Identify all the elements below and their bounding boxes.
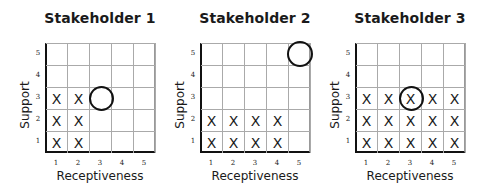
grid-cell: [201, 87, 223, 109]
x-mark: X: [444, 87, 466, 109]
y-tick-label: 2: [33, 115, 43, 123]
x-tick-label: 1: [355, 159, 377, 167]
x-mark: X: [400, 131, 422, 153]
x-tick-label: 3: [89, 159, 111, 167]
x-mark: X: [68, 131, 90, 153]
grid-cell: [112, 43, 134, 65]
x-tick-label: 3: [399, 159, 421, 167]
circle-marker: [89, 86, 114, 111]
grid-cell: [245, 65, 267, 87]
x-axis-label: Receptiveness: [195, 169, 315, 183]
x-mark: X: [46, 87, 68, 109]
y-tick-label: 3: [343, 93, 353, 101]
grid-cell: [223, 87, 245, 109]
grid-cell: [201, 65, 223, 87]
y-tick-label: 1: [188, 137, 198, 145]
grid-cell: [444, 43, 466, 65]
grid-cell: [289, 131, 311, 153]
grid-cell: [289, 109, 311, 131]
y-tick-label: 2: [188, 115, 198, 123]
chart-panel-3: Stakeholder 3XXXXXXXXXXXXXXX1234512345Su…: [318, 0, 478, 194]
grid-cell: [422, 43, 444, 65]
y-tick-label: 4: [343, 71, 353, 79]
grid-cell: [134, 43, 156, 65]
grid-cell: [90, 65, 112, 87]
x-mark: X: [267, 131, 289, 153]
grid-cell: [267, 43, 289, 65]
circle-marker: [287, 41, 313, 67]
chart-grid: XXXXXX: [45, 43, 155, 153]
y-axis-label: Support: [18, 81, 32, 128]
grid-cell: [378, 43, 400, 65]
grid-cell: [134, 87, 156, 109]
circle-marker: [399, 86, 424, 111]
grid-cell: [112, 109, 134, 131]
x-mark: X: [46, 109, 68, 131]
grid-cell: [90, 131, 112, 153]
y-tick-label: 1: [343, 137, 353, 145]
y-tick-label: 3: [33, 93, 43, 101]
x-mark: X: [201, 131, 223, 153]
x-tick-label: 4: [266, 159, 288, 167]
chart-grid: XXXXXXXXXXXXXXX: [355, 43, 465, 153]
grid-cell: [46, 65, 68, 87]
x-axis-label: Receptiveness: [40, 169, 160, 183]
x-mark: X: [46, 131, 68, 153]
grid-cell: [267, 65, 289, 87]
x-mark: X: [378, 131, 400, 153]
grid-cell: [267, 87, 289, 109]
x-mark: X: [400, 109, 422, 131]
grid-cell: [134, 109, 156, 131]
x-tick-label: 5: [133, 159, 155, 167]
x-mark: X: [378, 109, 400, 131]
y-tick-label: 1: [33, 137, 43, 145]
x-tick-label: 2: [377, 159, 399, 167]
grid-cell: [245, 43, 267, 65]
y-axis-label: Support: [328, 81, 342, 128]
y-tick-label: 4: [33, 71, 43, 79]
x-mark: X: [223, 131, 245, 153]
chart-grid: XXXXXXXX: [200, 43, 310, 153]
grid-cell: [245, 87, 267, 109]
x-tick-label: 4: [421, 159, 443, 167]
x-tick-label: 5: [443, 159, 465, 167]
y-tick-label: 5: [33, 49, 43, 57]
y-tick-label: 2: [343, 115, 353, 123]
x-tick-label: 4: [111, 159, 133, 167]
x-mark: X: [378, 87, 400, 109]
x-mark: X: [422, 131, 444, 153]
grid-cell: [400, 43, 422, 65]
x-tick-label: 1: [200, 159, 222, 167]
x-mark: X: [267, 109, 289, 131]
x-tick-label: 3: [244, 159, 266, 167]
grid-cell: [112, 87, 134, 109]
chart-panel-2: Stakeholder 2XXXXXXXX1234512345SupportRe…: [160, 0, 320, 194]
y-axis-label: Support: [173, 81, 187, 128]
chart-title: Stakeholder 3: [300, 10, 487, 26]
x-mark: X: [422, 109, 444, 131]
x-tick-label: 1: [45, 159, 67, 167]
y-tick-label: 5: [343, 49, 353, 57]
x-mark: X: [356, 131, 378, 153]
x-mark: X: [245, 109, 267, 131]
grid-cell: [400, 65, 422, 87]
grid-cell: [289, 87, 311, 109]
x-tick-label: 2: [222, 159, 244, 167]
x-tick-label: 2: [67, 159, 89, 167]
grid-cell: [444, 65, 466, 87]
x-mark: X: [68, 87, 90, 109]
y-tick-label: 5: [188, 49, 198, 57]
y-tick-label: 3: [188, 93, 198, 101]
x-mark: X: [245, 131, 267, 153]
grid-cell: [90, 43, 112, 65]
x-mark: X: [68, 109, 90, 131]
x-mark: X: [201, 109, 223, 131]
x-mark: X: [356, 87, 378, 109]
grid-cell: [356, 43, 378, 65]
grid-cell: [112, 131, 134, 153]
grid-cell: [134, 65, 156, 87]
grid-cell: [289, 65, 311, 87]
grid-cell: [356, 65, 378, 87]
x-mark: X: [422, 87, 444, 109]
grid-cell: [201, 43, 223, 65]
